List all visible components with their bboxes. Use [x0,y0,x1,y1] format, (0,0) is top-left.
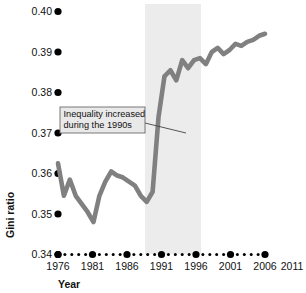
y-tick-dot [54,89,61,96]
x-axis-labels: 1976 1981 1986 1991 1996 2001 2006 2011 [46,260,303,272]
x-minor-dot [188,253,191,256]
y-tick-dot [54,8,61,15]
x-minor-dot [98,253,101,256]
y-tick-label: 0.36 [32,167,53,179]
x-major-dot [261,251,268,258]
x-minor-dot [222,253,225,256]
y-tick-0.38: 0.38 [32,86,62,98]
x-minor-dot [132,253,135,256]
x-major-dot [54,251,61,258]
y-tick-label: 0.38 [32,86,53,98]
x-tick-label: 1986 [115,260,139,272]
y-tick-0.40: 0.40 [32,5,62,17]
x-axis-dots [54,251,268,258]
x-minor-dot [250,253,253,256]
x-major-dot [227,251,234,258]
x-minor-dot [174,253,177,256]
x-minor-dot [181,253,184,256]
x-tick-label: 2001 [219,260,243,272]
y-tick-0.37: 0.37 [32,127,62,139]
x-major-dot [89,251,96,258]
x-minor-dot [84,253,87,256]
x-minor-dot [257,253,260,256]
x-tick-label: 1976 [46,260,70,272]
x-tick-label: 1981 [81,260,105,272]
y-tick-0.39: 0.39 [32,46,62,58]
y-tick-0.35: 0.35 [32,208,62,220]
x-minor-dot [236,253,239,256]
y-axis-title: Gini ratio [4,192,16,238]
shaded-decade-band [145,4,201,254]
x-minor-dot [112,253,115,256]
x-tick-label: 2011 [281,260,304,272]
chart-canvas: 0.40 0.39 0.38 0.37 0.36 0.35 [0,0,306,293]
x-tick-label: 1996 [184,260,208,272]
x-minor-dot [243,253,246,256]
x-minor-dot [201,253,204,256]
annotation-line-2: during the 1990s [64,120,133,130]
x-minor-dot [63,253,66,256]
x-minor-dot [215,253,218,256]
x-minor-dot [70,253,73,256]
x-tick-label: 2006 [253,260,277,272]
x-minor-dot [208,253,211,256]
x-major-dot [192,251,199,258]
x-tick-label: 1991 [150,260,174,272]
y-tick-dot [54,210,61,217]
x-minor-dot [77,253,80,256]
y-tick-label: 0.34 [32,248,53,260]
x-minor-dot [167,253,170,256]
x-minor-dot [139,253,142,256]
y-tick-label: 0.37 [32,127,53,139]
x-axis-title: Year [58,278,80,290]
y-axis: 0.40 0.39 0.38 0.37 0.36 0.35 [32,5,62,260]
x-major-dot [158,251,165,258]
inequality-callout: Inequality increased during the 1990s [60,107,145,133]
y-tick-dot [54,48,61,55]
y-tick-label: 0.39 [32,46,53,58]
annotation-line-1: Inequality increased [64,109,146,119]
x-minor-dot [153,253,156,256]
x-minor-dot [119,253,122,256]
gini-ratio-chart: 0.40 0.39 0.38 0.37 0.36 0.35 [0,0,306,293]
x-minor-dot [105,253,108,256]
y-tick-label: 0.35 [32,208,53,220]
x-minor-dot [146,253,149,256]
y-tick-label: 0.40 [32,5,53,17]
x-major-dot [123,251,130,258]
